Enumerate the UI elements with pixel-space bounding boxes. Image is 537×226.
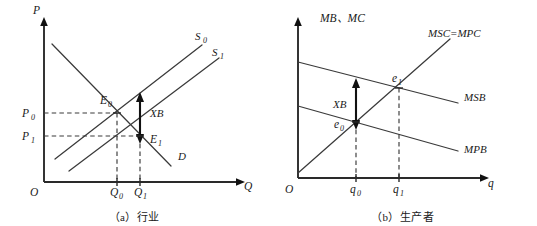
p0-tick-subscript: 0	[31, 113, 35, 122]
supply-0-label-subscript: 0	[203, 36, 207, 45]
demand-label: D	[177, 150, 186, 162]
e0-point-subscript: 0	[108, 100, 112, 109]
panel-b-y-axis-label: MB、MC	[319, 12, 365, 24]
p1-tick-subscript: 1	[31, 136, 35, 145]
supply-1-curve	[69, 58, 219, 171]
panel-b-axes	[294, 17, 489, 182]
msb-label: MSB	[463, 91, 486, 103]
q0-tick-label: q	[350, 183, 356, 196]
q0-tick-subscript: 0	[357, 189, 361, 198]
panel-b-x-axis-label: q	[488, 177, 494, 190]
msc-mpc-curve	[298, 39, 450, 173]
q1-tick-subscript: 1	[143, 192, 147, 201]
e0-point-label: E	[99, 94, 107, 106]
mpb-curve	[298, 106, 458, 151]
panel-a-x-axis-label: Q	[244, 180, 253, 192]
panel-b-x-tick-labels: q 0 q 1	[350, 183, 404, 198]
xb-arrow-head-up	[136, 92, 144, 102]
y-axis-arrowhead	[294, 17, 302, 26]
e0-point-label: e	[334, 118, 339, 130]
q1-tick-label: Q	[134, 186, 143, 198]
e1-point-label: E	[149, 133, 157, 145]
panel-b-origin-label: O	[285, 183, 294, 195]
panel-a-curves	[52, 44, 219, 171]
mpb-label: MPB	[463, 143, 487, 155]
q1-tick-label: q	[393, 183, 399, 196]
panel-a-industry: XB P Q O P 0 P 1 Q 0 Q 1 S 0 S 1	[0, 0, 268, 226]
msc-mpc-label: MSC=MPC	[427, 27, 481, 39]
q0-tick-label: Q	[110, 186, 119, 198]
q0-tick-subscript: 0	[119, 192, 123, 201]
economics-figure: XB P Q O P 0 P 1 Q 0 Q 1 S 0 S 1	[0, 0, 537, 226]
panel-b-caption: （b）生产者	[268, 208, 537, 224]
supply-0-curve	[55, 45, 202, 159]
p1-tick-label: P	[21, 130, 29, 142]
msb-curve	[298, 62, 458, 103]
e1-point-subscript: 1	[158, 139, 162, 148]
panel-a-y-axis-label: P	[32, 4, 40, 16]
p0-tick-label: P	[21, 107, 29, 119]
e1-point-subscript: 1	[398, 78, 402, 87]
panel-b-curves	[298, 39, 458, 173]
panel-a-reference-lines	[44, 113, 140, 182]
panel-b-xb-label: XB	[332, 98, 347, 110]
panel-a-caption: （a）行业	[0, 208, 268, 224]
e1-point-label: e	[392, 72, 397, 84]
supply-1-label: S	[212, 46, 218, 58]
supply-1-label-subscript: 1	[220, 52, 224, 61]
panel-a-origin-label: O	[30, 186, 39, 198]
xb-arrow-head-up	[352, 78, 360, 88]
panel-a-point-labels: E 0 E 1	[99, 94, 162, 148]
y-axis-arrowhead	[40, 17, 48, 26]
panel-a-curve-labels: S 0 S 1 D	[177, 30, 224, 162]
panel-b-point-markers	[352, 88, 403, 122]
panel-a-y-tick-labels: P 0 P 1	[21, 107, 35, 145]
panel-b-producer: XB MB、MC q O q 0 q 1 MSC=MPC MSB MPB e 0…	[268, 0, 537, 226]
q1-tick-subscript: 1	[400, 189, 404, 198]
panel-b-curve-labels: MSC=MPC MSB MPB	[427, 27, 487, 155]
panel-a-xb-label: XB	[149, 107, 164, 119]
supply-0-label: S	[195, 30, 201, 42]
panel-a-x-tick-labels: Q 0 Q 1	[110, 186, 147, 201]
e0-point-subscript: 0	[340, 124, 344, 133]
